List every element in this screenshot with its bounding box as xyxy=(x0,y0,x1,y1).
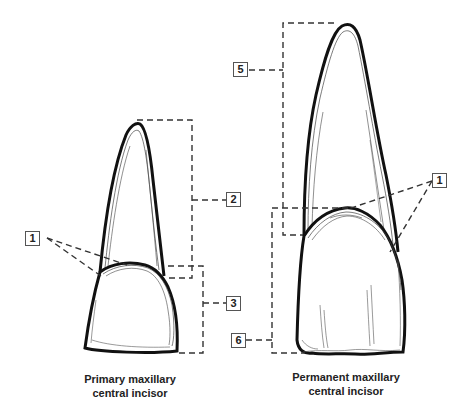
caption-primary: Primary maxillary central incisor xyxy=(50,372,210,400)
label-2: 2 xyxy=(226,192,241,207)
caption-primary-line1: Primary maxillary xyxy=(50,372,210,386)
caption-permanent-line2: central incisor xyxy=(266,384,426,398)
caption-permanent-line1: Permanent maxillary xyxy=(266,370,426,384)
caption-permanent: Permanent maxillary central incisor xyxy=(266,370,426,398)
permanent-incisor xyxy=(297,25,405,355)
label-1-right: 1 xyxy=(432,173,447,188)
label-1-left: 1 xyxy=(25,231,40,246)
caption-primary-line2: central incisor xyxy=(50,386,210,400)
primary-incisor xyxy=(85,123,177,352)
label-6: 6 xyxy=(231,333,246,348)
primary-crown xyxy=(85,263,177,352)
label-5: 5 xyxy=(233,62,248,77)
label-3: 3 xyxy=(226,296,241,311)
permanent-crown xyxy=(297,208,405,354)
